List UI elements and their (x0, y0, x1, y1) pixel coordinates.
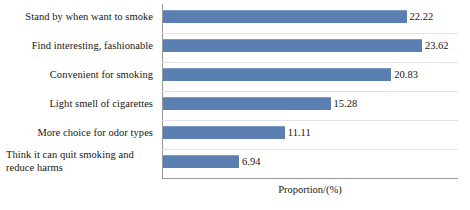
bar-value-5: 6.94 (242, 155, 260, 168)
bar-value-3: 15.28 (334, 97, 358, 110)
bar-5[interactable] (163, 155, 239, 168)
gridline-3 (162, 91, 458, 92)
bar-4[interactable] (163, 126, 285, 139)
category-axis-labels: Stand by when want to smoke Find interes… (0, 3, 158, 178)
bar-value-2: 20.83 (394, 68, 418, 81)
category-label-3: Light smell of cigarettes (1, 98, 153, 111)
bar-chart: Stand by when want to smoke Find interes… (0, 0, 470, 210)
gridline-5 (162, 149, 458, 150)
category-label-2: Convenient for smoking (1, 69, 153, 82)
bar-2[interactable] (163, 68, 391, 81)
category-label-0: Stand by when want to smoke (1, 11, 153, 24)
bar-value-1: 23.62 (425, 39, 449, 52)
gridline-2 (162, 62, 458, 63)
plot-area: 22.22 23.62 20.83 15.28 11.11 6.94 (162, 4, 458, 179)
x-axis-line (162, 178, 458, 179)
gridline-1 (162, 33, 458, 34)
x-axis-title: Proportion/(%) (162, 184, 458, 195)
bar-value-0: 22.22 (410, 10, 434, 23)
category-label-1: Find interesting, fashionable (1, 40, 153, 53)
category-label-5: Think it can quit smoking and reduce har… (6, 149, 156, 174)
category-label-4: More choice for odor types (1, 127, 153, 140)
bar-1[interactable] (163, 39, 422, 52)
bar-3[interactable] (163, 97, 331, 110)
gridline-4 (162, 120, 458, 121)
bar-0[interactable] (163, 10, 407, 23)
bar-value-4: 11.11 (288, 126, 311, 139)
